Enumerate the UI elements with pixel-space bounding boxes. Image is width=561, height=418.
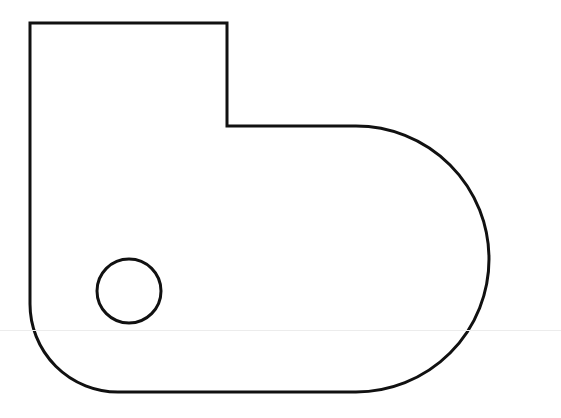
part-drawing <box>0 0 561 418</box>
part-outline <box>30 23 489 392</box>
circular-hole <box>97 259 161 323</box>
scan-artifact-line <box>0 330 561 331</box>
